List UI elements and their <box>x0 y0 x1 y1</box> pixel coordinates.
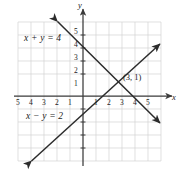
y-axis-label: y <box>78 0 82 10</box>
x-tick-label: 4 <box>29 98 33 107</box>
x-tick-label: 3 <box>42 98 46 107</box>
x-tick-label: 5 <box>146 98 150 107</box>
intersection-point-label: (3, 1) <box>123 72 141 82</box>
y-tick-label: 4 <box>74 40 78 49</box>
x-tick-label: 2 <box>107 98 111 107</box>
x-tick-label: 2 <box>55 98 59 107</box>
x-tick-label: 5 <box>16 98 20 107</box>
y-tick-label: 3 <box>74 53 78 62</box>
x-tick-label: 1 <box>68 98 72 107</box>
graph-canvas <box>0 0 182 173</box>
equation-label-top: x + y = 4 <box>24 33 61 43</box>
y-tick-label: 5 <box>74 27 78 36</box>
y-tick-label: 1 <box>74 79 78 88</box>
x-tick-label: 4 <box>133 98 137 107</box>
coordinate-graph: x + y = 4 x − y = 2 (3, 1) x y 5 4 3 2 1… <box>0 0 182 173</box>
y-tick-label: 2 <box>74 66 78 75</box>
equation-label-bottom: x − y = 2 <box>26 111 63 121</box>
x-tick-label: 3 <box>120 98 124 107</box>
x-tick-label: 1 <box>94 98 98 107</box>
x-axis-label: x <box>172 92 176 102</box>
y-axis <box>81 9 86 166</box>
